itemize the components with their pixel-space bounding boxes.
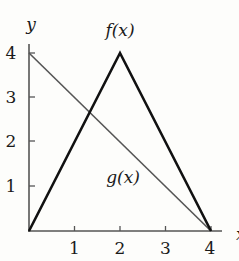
series-g-line bbox=[29, 53, 211, 231]
y-tick-label: 4 bbox=[6, 43, 17, 63]
y-ticks bbox=[29, 53, 35, 186]
y-tick-label: 2 bbox=[6, 131, 17, 151]
x-tick-label: 1 bbox=[69, 238, 80, 258]
series-g-label: g(x) bbox=[106, 167, 140, 187]
x-tick-label: 4 bbox=[205, 238, 216, 258]
x-axis-label: x bbox=[236, 224, 239, 244]
x-tick-label: 2 bbox=[115, 238, 126, 258]
series-f-label: f(x) bbox=[103, 20, 134, 40]
chart: 1 2 3 4 1 2 3 4 y x f(x) g(x) bbox=[0, 0, 239, 261]
y-tick-label: 3 bbox=[6, 87, 17, 107]
y-axis-label: y bbox=[25, 14, 36, 34]
x-tick-label: 3 bbox=[160, 238, 171, 258]
y-tick-label: 1 bbox=[6, 176, 17, 196]
